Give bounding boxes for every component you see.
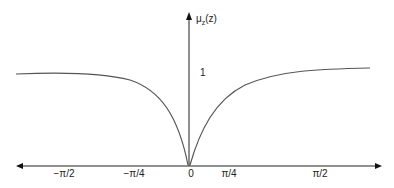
y-axis-label: μz(z): [196, 14, 217, 26]
x-tick-pi-4: π/4: [221, 169, 236, 179]
y-axis-label-arg: (z): [205, 13, 217, 24]
x-tick-pi-2: π/2: [312, 169, 327, 179]
x-axis-left-arrow-icon: [16, 163, 23, 169]
y-axis-up-arrow-icon: [186, 12, 192, 20]
x-axis-right-arrow-icon: [375, 163, 382, 169]
x-tick-0: 0: [188, 169, 194, 179]
y-tick-1: 1: [200, 68, 206, 78]
curve-left: [16, 73, 188, 165]
membership-function-chart: [0, 0, 394, 188]
curve-right: [190, 68, 370, 165]
x-tick-neg-pi-2: −π/2: [53, 169, 74, 179]
x-tick-neg-pi-4: −π/4: [123, 169, 144, 179]
